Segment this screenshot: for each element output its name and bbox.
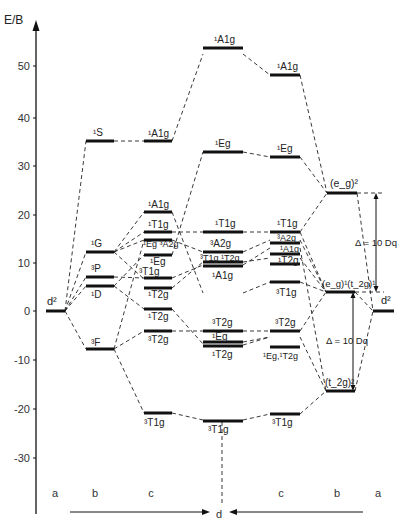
d-center-label: ¹A1g bbox=[212, 270, 233, 281]
axis-arrow-icon bbox=[33, 20, 40, 31]
d-center-label: ³T2g bbox=[212, 317, 233, 328]
tick-label: 0 bbox=[24, 305, 30, 317]
tick-label: 40 bbox=[18, 112, 30, 124]
d-center-label: ¹Eg bbox=[212, 331, 228, 342]
c-left-label: ¹A1g bbox=[148, 199, 169, 210]
config-t2g2: (t_2g)² bbox=[325, 377, 355, 388]
delta-label-lower: Δ = 10 Dq bbox=[326, 335, 368, 346]
tick-label: -30 bbox=[14, 452, 30, 464]
d-center-label: ¹T2g bbox=[212, 349, 233, 360]
term-3F: ³F bbox=[91, 337, 100, 348]
c-right-label: ¹T2g bbox=[278, 255, 299, 266]
col-b-right: b bbox=[334, 487, 340, 499]
c-right-label: ³A2g bbox=[277, 233, 296, 243]
col-b-left: b bbox=[92, 487, 98, 499]
d-center-label: ¹A1g bbox=[214, 34, 235, 45]
c-right-label: ¹Eg,¹T2g bbox=[263, 351, 298, 361]
axis-title: E/B bbox=[4, 13, 23, 27]
term-1D: ¹D bbox=[91, 289, 102, 300]
energy-levels bbox=[46, 48, 394, 421]
correlation-diagram: E/B 50 40 30 20 10 0 -10 -20 -30 bbox=[0, 0, 413, 529]
tick-label: -20 bbox=[14, 403, 30, 415]
c-right-label: ¹T1g bbox=[277, 218, 298, 229]
tick-label: 30 bbox=[18, 160, 30, 172]
config-eg1t2g1: (e_g)¹(t_2g)¹ bbox=[322, 278, 375, 289]
c-left-label: ¹T1g bbox=[148, 219, 169, 230]
d-center-label: ³T1g bbox=[208, 424, 229, 435]
term-1S: ¹S bbox=[93, 127, 103, 138]
col-c-right: c bbox=[278, 487, 284, 499]
d-center-label: ³T1g ¹T2g bbox=[200, 253, 240, 263]
c-left-label: ³T1g bbox=[139, 266, 160, 277]
c-right-label: ¹A1g bbox=[280, 244, 299, 254]
c-left-label: ³T1g bbox=[144, 417, 165, 428]
c-right-label: ³T2g bbox=[275, 317, 296, 328]
tick-label: 50 bbox=[18, 60, 30, 72]
col-d-center: d bbox=[216, 508, 222, 520]
delta-label-upper: Δ = 10 Dq bbox=[355, 237, 397, 248]
y-axis: E/B 50 40 30 20 10 0 -10 -20 -30 bbox=[4, 13, 40, 514]
col-c-left: c bbox=[148, 487, 154, 499]
config-eg2: (e_g)² bbox=[330, 177, 359, 189]
d-center-label: ¹T1g bbox=[215, 218, 236, 229]
term-labels: d² ¹S ¹G ³P ¹D ³F ¹A1g ¹A1g ¹T1g ¹Eg ³A2… bbox=[47, 34, 391, 435]
col-a-left: a bbox=[52, 487, 59, 499]
d-center-label: ³A2g bbox=[210, 238, 231, 249]
c-left-label: ¹T2g bbox=[148, 311, 169, 322]
c-right-label: ³T1g bbox=[276, 287, 297, 298]
arrow-right-icon bbox=[202, 509, 210, 515]
term-3P: ³P bbox=[91, 263, 101, 274]
column-labels: a b c d c b a bbox=[52, 487, 382, 520]
c-right-label: ³T1g bbox=[272, 417, 293, 428]
d2-right-label: d² bbox=[381, 294, 391, 306]
c-left-label: ³T2g bbox=[148, 334, 169, 345]
c-right-label: ¹Eg bbox=[277, 143, 293, 154]
c-left-label: ¹T2g bbox=[148, 289, 169, 300]
tick-label: 10 bbox=[18, 257, 30, 269]
d-center-label: ¹Eg bbox=[215, 138, 231, 149]
tick-label: 20 bbox=[18, 209, 30, 221]
term-1G: ¹G bbox=[91, 238, 102, 249]
d2-left-label: d² bbox=[47, 295, 57, 307]
tick-label: -10 bbox=[14, 354, 30, 366]
c-left-label: ¹Eg ³A2g bbox=[143, 239, 179, 249]
c-left-label: ¹A1g bbox=[148, 128, 169, 139]
arrow-left-icon bbox=[229, 509, 237, 515]
c-right-label: ¹A1g bbox=[277, 61, 298, 72]
col-a-right: a bbox=[375, 487, 382, 499]
